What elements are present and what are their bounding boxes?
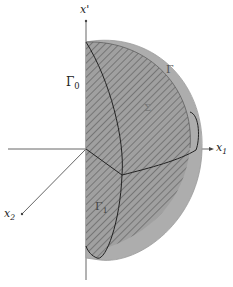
x-prime-label: x' bbox=[80, 4, 89, 15]
x1-label: x1 bbox=[216, 142, 227, 156]
x2-label: x2 bbox=[4, 208, 15, 222]
gamma0-label: Γ0 bbox=[66, 76, 80, 91]
gamma1-label: Γ1 bbox=[95, 201, 108, 215]
gamma-label: Γ bbox=[166, 64, 174, 75]
x2-axis bbox=[22, 149, 86, 214]
diagram-canvas bbox=[0, 0, 233, 287]
sigma-label: Σ bbox=[144, 103, 151, 113]
